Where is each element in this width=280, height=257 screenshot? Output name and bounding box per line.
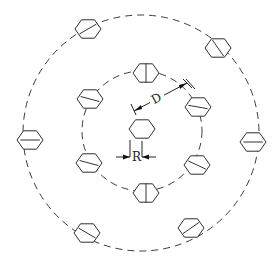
hexagon-icon (129, 120, 155, 138)
outer-ring-element (75, 20, 101, 38)
inner-ring-element (77, 90, 103, 108)
outer-ring-element (17, 131, 43, 149)
radius-dimension: R (116, 140, 156, 164)
extension-line (131, 104, 136, 115)
inner-ring-element (133, 183, 159, 203)
arrow-icon (134, 105, 142, 111)
outer-ring-element (205, 39, 231, 57)
arrow-icon (179, 83, 187, 89)
outer-ring-element (74, 224, 100, 242)
arrow-icon (142, 155, 149, 160)
inner-ring-element (76, 154, 102, 172)
inner-ring-element (185, 98, 211, 116)
center-element (129, 120, 155, 138)
spacing-dimension: D (131, 79, 195, 115)
outer-ring-element (178, 219, 204, 237)
concentric-ring-diagram: D R (0, 0, 280, 257)
inner-ring-element (133, 63, 159, 83)
outer-ring-element (240, 133, 266, 151)
radius-label: R (132, 150, 142, 164)
inner-ring-element (184, 156, 210, 174)
arrow-icon (123, 155, 130, 160)
